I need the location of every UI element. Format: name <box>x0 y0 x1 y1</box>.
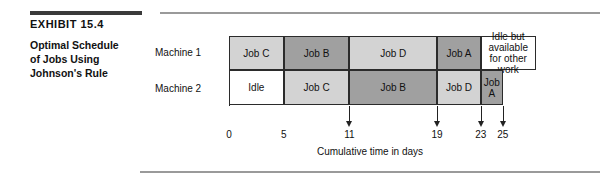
axis-tick-label: 23 <box>475 129 486 140</box>
gantt-bar-label: Job C <box>303 82 331 93</box>
gantt-bar-label: Job D <box>379 48 407 59</box>
arrow-head-icon <box>500 121 506 127</box>
gantt-bar: Job B <box>284 36 350 70</box>
gantt-bar: Job D <box>437 70 481 105</box>
row-label-machine-1: Machine 1 <box>155 47 201 58</box>
gantt-bar: Job D <box>349 36 437 70</box>
gantt-chart: Machine 1 Machine 2 Job CJob BJob DJob A… <box>0 0 610 185</box>
axis-tick-label: 0 <box>226 129 232 140</box>
gantt-bar-label: Job A <box>482 77 502 99</box>
gantt-bar-label: Job A <box>445 48 472 59</box>
axis-tick-arrow <box>481 106 482 122</box>
gantt-bar: Idle <box>229 70 284 105</box>
arrow-head-icon <box>434 121 440 127</box>
axis-tick-arrow <box>437 106 438 122</box>
axis-caption: Cumulative time in days <box>317 146 423 157</box>
gantt-bar: Job A <box>481 70 503 105</box>
row-label-machine-2: Machine 2 <box>155 83 201 94</box>
gantt-bar: Idle but available for other work <box>481 36 536 70</box>
axis-tick-label: 11 <box>344 129 354 140</box>
gantt-bar-label: Job D <box>445 82 473 93</box>
axis-tick-label: 5 <box>281 129 287 140</box>
arrow-head-icon <box>346 121 352 127</box>
axis-tick-label: 25 <box>497 129 508 140</box>
gantt-bar-label: Idle <box>247 82 265 93</box>
gantt-bar: Job C <box>229 36 284 70</box>
gantt-bar-label: Idle but available for other work <box>482 31 535 75</box>
axis-tick-arrow <box>503 106 504 122</box>
arrow-head-icon <box>478 121 484 127</box>
gantt-bar: Job C <box>284 70 350 105</box>
gantt-bar-label: Job B <box>379 82 407 93</box>
gantt-bar: Job B <box>349 70 437 105</box>
gantt-bar: Job A <box>437 36 481 70</box>
axis-tick-arrow <box>349 106 350 122</box>
gantt-bar-label: Job C <box>242 48 270 59</box>
axis-tick-label: 19 <box>431 129 442 140</box>
gantt-bar-label: Job B <box>303 48 331 59</box>
